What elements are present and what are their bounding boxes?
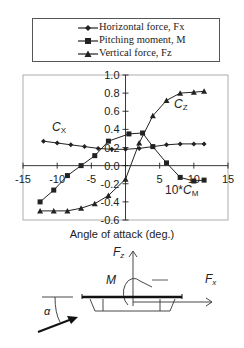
- svg-text:0.4: 0.4: [104, 123, 119, 135]
- svg-text:0.6: 0.6: [104, 105, 119, 117]
- alpha-label: α: [44, 305, 51, 317]
- chart-plot: 1.00.80.60.40.20.0-0.2-0.4-0.6-15-10-551…: [0, 0, 244, 348]
- svg-text:1.0: 1.0: [104, 69, 119, 81]
- svg-text:15: 15: [222, 173, 234, 185]
- fz-label: Fz: [113, 245, 124, 260]
- svg-text:-5: -5: [86, 173, 96, 185]
- svg-text:-10: -10: [49, 173, 65, 185]
- axes: 1.00.80.60.40.20.0-0.2-0.4-0.6-15-10-551…: [15, 69, 234, 226]
- cx-annotation: CX: [52, 120, 67, 135]
- svg-text:-15: -15: [15, 173, 31, 185]
- svg-text:5: 5: [157, 173, 163, 185]
- cz-annotation: CZ: [174, 97, 188, 112]
- fx-label: Fx: [205, 272, 217, 287]
- cm-annotation: 10*CM: [165, 183, 199, 198]
- m-label: M: [106, 273, 116, 287]
- moment-arrow-icon: [123, 278, 152, 305]
- svg-text:0.0: 0.0: [104, 160, 119, 172]
- force-diagram: Fz Fx M α: [38, 245, 217, 332]
- flow-arrow-icon: [38, 319, 72, 332]
- svg-text:0.8: 0.8: [104, 87, 119, 99]
- x-axis-label: Angle of attack (deg.): [0, 228, 244, 240]
- svg-text:-0.6: -0.6: [101, 214, 120, 226]
